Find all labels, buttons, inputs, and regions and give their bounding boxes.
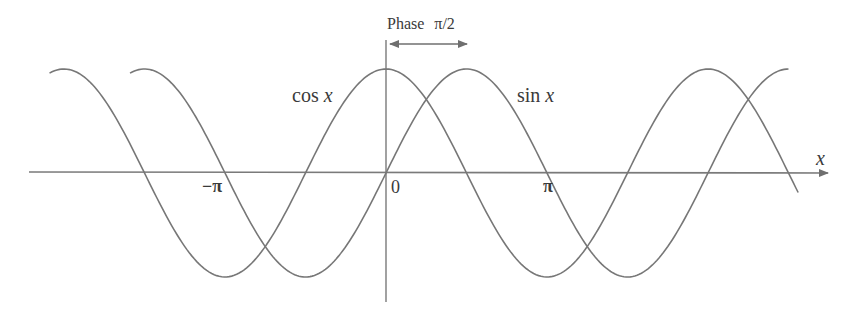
tick-label-neg-pi: −π: [202, 176, 222, 196]
phase-label: Phase π/2: [387, 15, 455, 32]
cos-label-var: x: [323, 84, 333, 106]
tick-label-pi: π: [543, 176, 553, 196]
sin-label: sin x: [517, 84, 554, 106]
tick-label-zero: 0: [391, 177, 400, 197]
sin-label-var: x: [544, 84, 554, 106]
phase-word: Phase: [387, 15, 424, 32]
phase-value: π/2: [434, 15, 455, 32]
sin-label-func: sin: [517, 84, 545, 106]
sine-cosine-chart: Phase π/2 cos x sin x −π 0 π x: [0, 0, 847, 311]
cos-label: cos x: [292, 84, 333, 106]
cos-label-func: cos: [292, 84, 324, 106]
x-axis-label: x: [815, 147, 825, 169]
